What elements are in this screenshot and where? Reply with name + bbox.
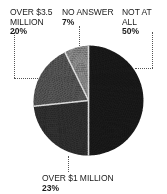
slice-percent-value: 20% xyxy=(10,27,53,37)
pie-slice-over-1-million xyxy=(34,101,89,156)
slice-percent-value: 50% xyxy=(122,27,152,37)
leader-line-over-3-5-million-horizontal xyxy=(14,78,40,79)
pie-chart xyxy=(33,45,144,156)
leader-line-over-3-5-million xyxy=(14,32,15,78)
slice-label-over-3-5-million: OVER $3.5 MILLION 20% xyxy=(10,8,53,37)
slice-label-not-at-all: NOT AT ALL 50% xyxy=(122,8,152,37)
slice-label-over-1-million: OVER $1 MILLION 23% xyxy=(42,174,114,193)
pie-chart-figure: OVER $3.5 MILLION 20% NO ANSWER 7% NOT A… xyxy=(0,0,167,194)
leader-line-not-at-all xyxy=(152,32,153,68)
slice-label-no-answer: NO ANSWER 7% xyxy=(62,8,114,27)
leader-line-over-1-million xyxy=(68,156,69,172)
pie-svg xyxy=(33,45,144,156)
pie-slice-not-at-all xyxy=(89,46,144,156)
leader-line-not-at-all-horizontal xyxy=(135,68,153,69)
slice-percent-value: 7% xyxy=(62,18,114,28)
leader-line-no-answer xyxy=(79,26,80,46)
slice-percent-value: 23% xyxy=(42,184,114,194)
